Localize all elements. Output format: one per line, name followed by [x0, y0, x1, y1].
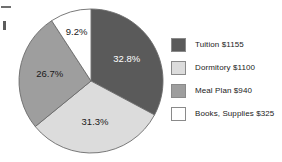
pie-chart-svg: 32.8%31.3%26.7%9.2% — [17, 6, 165, 156]
legend-item[interactable]: Meal Plan $940 — [171, 79, 282, 102]
scan-artifact-mark — [3, 21, 6, 30]
pie-slice-percent-label: 9.2% — [66, 26, 88, 37]
pie-chart: 32.8%31.3%26.7%9.2% — [17, 6, 165, 156]
legend-item-label: Meal Plan $940 — [195, 86, 252, 95]
pie-slice-percent-label: 31.3% — [82, 116, 109, 127]
legend-item[interactable]: Dormitory $1100 — [171, 56, 282, 79]
legend-color-swatch — [171, 107, 186, 121]
pie-slice-group — [19, 9, 163, 153]
legend-item-label: Books, Supplies $325 — [195, 109, 274, 118]
scan-artifacts — [0, 0, 16, 162]
legend-item[interactable]: Tuition $1155 — [171, 33, 282, 56]
pie-slice-percent-label: 32.8% — [113, 53, 140, 64]
pie-slice-percent-label: 26.7% — [36, 68, 63, 79]
legend-color-swatch — [171, 61, 186, 75]
chart-legend: Tuition $1155Dormitory $1100Meal Plan $9… — [171, 33, 282, 125]
legend-color-swatch — [171, 84, 186, 98]
legend-color-swatch — [171, 38, 186, 52]
scan-artifact-dash — [1, 6, 11, 8]
legend-item-label: Dormitory $1100 — [195, 63, 255, 72]
legend-item-label: Tuition $1155 — [195, 40, 244, 49]
legend-item[interactable]: Books, Supplies $325 — [171, 102, 282, 125]
